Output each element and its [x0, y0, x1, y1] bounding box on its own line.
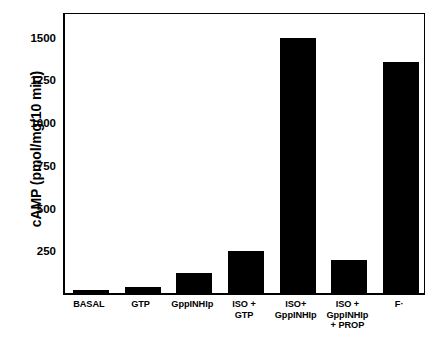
- bar: [73, 290, 109, 293]
- y-axis-tick-label: 250: [0, 245, 56, 257]
- plot-area: [63, 13, 425, 295]
- y-axis-tick-label: 1500: [0, 32, 56, 44]
- bar: [228, 251, 264, 293]
- bar: [331, 260, 367, 293]
- bar: [125, 287, 161, 293]
- y-axis-tick-label: 1250: [0, 74, 56, 86]
- bar-chart-figure: cAMP (pmol/mg/10 min) 250500750100012501…: [0, 0, 444, 342]
- bar: [176, 273, 212, 293]
- bar: [280, 38, 316, 293]
- x-axis-tick-label: F·: [365, 299, 433, 310]
- y-axis-tick-label: 1000: [0, 117, 56, 129]
- y-axis-title: cAMP (pmol/mg/10 min): [28, 34, 44, 264]
- y-axis-tick-label: 750: [0, 160, 56, 172]
- y-axis-tick-label: 500: [0, 203, 56, 215]
- bar: [383, 62, 419, 293]
